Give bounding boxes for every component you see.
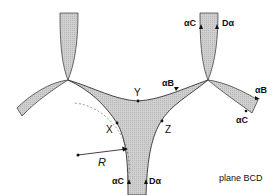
label-alphaC-right: αC bbox=[236, 115, 249, 125]
plane-caption: plane BCD bbox=[219, 173, 263, 183]
left-top-film bbox=[60, 13, 78, 80]
dot-alphaC-right bbox=[245, 110, 248, 113]
label-alphaC-top: αC bbox=[184, 18, 197, 28]
label-Dalpha-top: Dα bbox=[222, 18, 234, 28]
right-lower-film bbox=[208, 80, 258, 113]
label-alphaB-middle: αB bbox=[162, 78, 175, 88]
point-x-label: X bbox=[106, 124, 113, 135]
radius-label: R bbox=[98, 156, 106, 168]
arrow-alphaB-middle bbox=[174, 87, 179, 91]
point-x-dot bbox=[116, 122, 119, 125]
point-z-dot bbox=[161, 120, 164, 123]
left-lower-film bbox=[17, 80, 68, 116]
arrow-alphaB-right bbox=[255, 96, 260, 100]
right-top-film bbox=[200, 13, 218, 80]
label-alphaC-bottom: αC bbox=[112, 176, 125, 186]
point-z-label: Z bbox=[165, 124, 171, 135]
point-y-label: Y bbox=[134, 87, 141, 98]
label-alphaB-right: αB bbox=[255, 85, 268, 95]
radius-arrow bbox=[78, 149, 126, 155]
plateau-border-diagram: R Y X Z αC Dα αB αB αC αC Dα plane BCD bbox=[0, 0, 280, 195]
label-Dalpha-bottom: Dα bbox=[149, 176, 161, 186]
point-y-dot bbox=[137, 100, 140, 103]
